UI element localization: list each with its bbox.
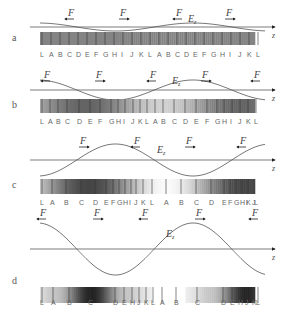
z-axis-label: z [271,31,276,40]
particle-label: L [40,51,44,58]
particle-label: C [172,118,177,125]
particle-label: L [148,51,152,58]
density-bar [40,99,256,113]
particle-label: B [58,51,63,58]
particle-label: F [205,118,209,125]
particle-label: B [64,199,69,206]
particle-label: E [230,299,235,306]
particle-label: D [183,118,188,125]
diagram-canvas: azEzFFFFLABCDEFGHIJKLABCDEFGHIJKLbzEzFFF… [0,0,291,321]
particle-label: A [51,299,56,306]
particle-label: C [88,299,93,306]
z-axis-label: z [271,164,276,173]
panel-label: b [12,99,17,110]
force-label: F [39,207,47,218]
particle-label: J [130,51,134,58]
particle-label: I [129,199,131,206]
field-label: Ez [156,144,166,156]
particle-label: L [151,299,155,306]
particle-label: K [141,199,146,206]
particle-label: C [67,51,72,58]
particle-label: D [77,118,82,125]
particle-label: I [123,118,125,125]
force-right: F [79,135,89,147]
particle-label: A [48,118,53,125]
particle-label: H [238,299,243,306]
force-right: F [195,207,205,219]
particle-labels: LABCDEFGHIJKLABCDEFGHIJKL [40,199,258,206]
particle-label: G [103,51,108,58]
particle-label: J [245,299,249,306]
z-axis-label: z [271,94,276,103]
particle-label: L [145,118,149,125]
panel-label: a [12,32,17,43]
force-label: F [253,69,261,80]
particle-label: C [195,299,200,306]
force-label: F [93,207,101,218]
panel-c: czEzFFFFLABCDEFGHIJKLABCDEFGHIJKL [12,135,276,206]
force-label: F [185,135,193,146]
force-right: F [225,7,235,19]
force-left: F [249,207,259,219]
particle-label: E [104,199,109,206]
particle-label: C [79,199,84,206]
particle-label: A [160,299,165,306]
particle-label: G [117,199,122,206]
panel-label: c [12,179,17,190]
force-right: F [201,69,211,81]
force-right: F [93,207,103,219]
force-label: F [79,135,87,146]
particle-labels: LABCDEFGHIJKLABCDEFGHIJKL [40,51,260,58]
force-label: F [141,207,149,218]
particle-label: B [67,299,72,306]
particle-label: H [123,199,128,206]
particle-label: A [153,118,158,125]
particle-label: H [240,199,245,206]
force-left: F [251,69,261,81]
force-label: F [201,69,209,80]
particle-label: B [166,51,171,58]
particle-label: H [112,51,117,58]
particle-label: H [220,51,225,58]
panel-a: azEzFFFFLABCDEFGHIJKLABCDEFGHIJKL [12,7,276,58]
particle-label: C [175,51,180,58]
force-left: F [37,207,47,219]
force-right: F [95,69,105,81]
particle-label: K [139,51,144,58]
particle-label: K [246,199,251,206]
particle-label: C [65,118,70,125]
z-axis-label: z [271,253,276,262]
particle-label: K [246,118,251,125]
particle-label: L [254,199,258,206]
force-label: F [43,69,51,80]
particle-label: F [228,199,232,206]
force-right: F [185,135,195,147]
particle-label: I [121,51,123,58]
particle-label: E [88,118,93,125]
force-label: F [195,207,203,218]
particle-label: E [122,299,127,306]
particle-label: L [40,118,44,125]
force-left: F [237,135,247,147]
particle-label: D [93,199,98,206]
field-label: Ez [187,13,197,25]
panel-label: d [12,275,17,286]
particle-label: B [56,118,61,125]
particle-label: E [222,199,227,206]
panel-b: bzEzFFFFFLABCDEFGHIJKLABCDEFGHIJKL [12,69,276,125]
particle-label: D [184,51,189,58]
force-label: F [119,7,127,18]
particle-label: F [202,51,206,58]
force-right: F [119,7,129,19]
particle-label: H [116,118,121,125]
particle-label: G [211,51,216,58]
force-label: F [175,7,183,18]
particle-label: F [98,118,102,125]
particle-label: E [85,51,90,58]
particle-label: K [144,299,149,306]
particle-label: L [254,118,258,125]
particle-label: L [256,299,260,306]
force-label: F [133,135,141,146]
force-left: F [173,7,183,19]
particle-label: J [137,299,141,306]
